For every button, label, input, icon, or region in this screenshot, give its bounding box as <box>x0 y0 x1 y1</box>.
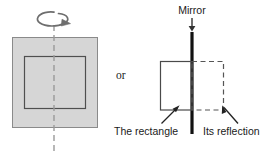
rotation-diagram-group <box>13 12 98 152</box>
object-rectangle-label: The rectangle <box>114 125 178 137</box>
or-label: or <box>116 69 126 81</box>
gray-square <box>13 38 98 128</box>
object-rectangle <box>161 62 193 111</box>
reflection-rectangle-label: Its reflection <box>203 125 260 137</box>
reflection-rectangle <box>192 62 224 111</box>
reflection-callout-arrow-icon <box>222 105 238 123</box>
mirror-diagram-group: Mirror The rectangle <box>114 4 260 137</box>
mirror-pointer-arrow-icon <box>189 18 196 32</box>
rotation-arrow-icon <box>37 12 70 26</box>
mirror-label: Mirror <box>178 4 206 16</box>
diagram-canvas: or Mirror <box>0 0 270 157</box>
object-callout-arrow-icon <box>162 105 180 123</box>
figure-container: or Mirror <box>0 0 270 157</box>
